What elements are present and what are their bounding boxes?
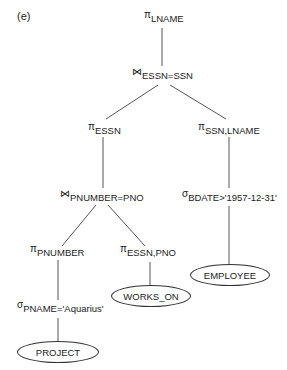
node-join-essn-ssn: ⋈ESSN=SSN xyxy=(132,67,193,77)
figure-label: (e) xyxy=(17,10,30,22)
node-project-lname: πLNAME xyxy=(144,10,184,20)
edge-join-project-essn-pno xyxy=(108,205,145,246)
join-icon: ⋈ xyxy=(132,66,142,77)
node-project-ssn-lname: πSSN,LNAME xyxy=(198,122,260,132)
edge-join-project-ssn xyxy=(170,85,226,119)
relation-project: PROJECT xyxy=(17,341,99,363)
join-icon: ⋈ xyxy=(60,188,70,199)
node-project-pnumber: πPNUMBER xyxy=(30,244,84,254)
relation-employee: EMPLOYEE xyxy=(190,264,270,286)
edge-join-project-pnumber xyxy=(62,205,96,246)
node-project-essn-pno: πESSN,PNO xyxy=(120,244,176,254)
relation-works-on: WORKS_ON xyxy=(111,285,191,307)
node-select-bdate: σBDATE>'1957-12-31' xyxy=(182,189,277,199)
pi-icon: π xyxy=(144,9,151,20)
pi-icon: π xyxy=(120,243,127,254)
pi-icon: π xyxy=(198,121,205,132)
edge-join-project-essn xyxy=(106,85,158,119)
node-project-essn: πESSN xyxy=(88,122,121,132)
pi-icon: π xyxy=(88,121,95,132)
node-join-pnumber-pno: ⋈PNUMBER=PNO xyxy=(60,189,144,199)
pi-icon: π xyxy=(30,243,37,254)
node-select-pname: σPNAME='Aquarius' xyxy=(17,300,104,310)
tree-edges xyxy=(0,0,287,370)
